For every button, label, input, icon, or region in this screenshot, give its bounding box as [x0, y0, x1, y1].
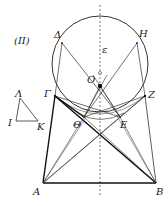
label-o: O — [87, 74, 95, 85]
point-h — [136, 42, 138, 44]
thick-gamma-theta — [55, 96, 84, 117]
point-z — [144, 95, 146, 97]
line-e-x — [93, 75, 120, 117]
label-gamma: Γ — [43, 88, 52, 99]
label-epsilon: ε — [102, 44, 107, 55]
figure-label: (II) — [14, 35, 30, 46]
point-e — [119, 116, 121, 118]
label-i: I — [7, 117, 13, 128]
side-b-z — [145, 96, 156, 183]
label-delta: Δ — [53, 29, 61, 40]
label-b: B — [155, 186, 163, 197]
small-triangle — [16, 98, 38, 121]
point-o-dot — [98, 84, 102, 88]
line-a-e — [43, 117, 120, 183]
side-a-gamma — [43, 96, 55, 183]
point-epsilon-hollow — [99, 72, 102, 75]
label-lambda: Λ — [14, 88, 22, 99]
geometry-diagram: (II) Δ H ε O Γ Z Θ E A B Λ I K — [0, 0, 168, 206]
point-delta — [61, 42, 63, 44]
label-z: Z — [147, 89, 156, 100]
point-theta — [83, 116, 85, 118]
label-h: H — [138, 28, 148, 39]
label-e: E — [119, 119, 128, 130]
point-gamma — [54, 95, 56, 97]
label-k: K — [36, 121, 45, 132]
label-a: A — [32, 186, 40, 197]
line-gamma-e — [55, 96, 120, 117]
label-theta: Θ — [73, 119, 81, 130]
